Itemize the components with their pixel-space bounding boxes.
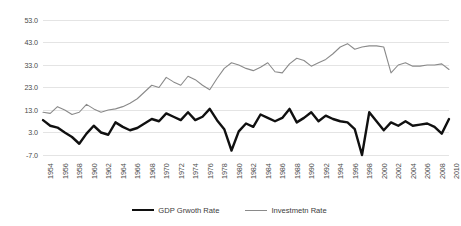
chart-legend: GDP Grwoth Rate Investmetn Rate [0, 202, 459, 218]
y-axis-tick-label: 3.0 [28, 128, 38, 137]
x-axis-tick-label: 1974 [191, 163, 200, 179]
x-axis-tick-label: 1964 [119, 163, 128, 179]
x-axis-tick-label: 1980 [235, 163, 244, 179]
legend-label-investment-rate: Investmetn Rate [271, 206, 326, 215]
x-axis-tick-label: 2002 [394, 163, 403, 179]
y-axis-tick-label: -7.0 [26, 151, 38, 160]
x-axis-tick-label: 1966 [133, 163, 142, 179]
x-axis-tick-label: 1986 [278, 163, 287, 179]
x-axis-tick-label: 1972 [177, 163, 186, 179]
x-axis-tick-label: 2000 [380, 163, 389, 179]
x-axis-tick-label: 1960 [90, 163, 99, 179]
x-axis-tick-label: 1994 [336, 163, 345, 179]
x-axis-tick-label: 2008 [438, 163, 447, 179]
x-axis-tick-label: 1976 [206, 163, 215, 179]
x-axis-tick-label: 1978 [220, 163, 229, 179]
x-axis-tick-label: 1990 [307, 163, 316, 179]
x-axis-tick-label: 1998 [365, 163, 374, 179]
x-axis-tick-label: 1954 [46, 163, 55, 179]
x-axis-tick-label: 2006 [423, 163, 432, 179]
y-axis-tick-label: 43.0 [24, 38, 38, 47]
legend-label-gdp-growth-rate: GDP Grwoth Rate [158, 206, 219, 215]
x-axis-tick-label: 1982 [249, 163, 258, 179]
x-axis-tick-label: 1968 [148, 163, 157, 179]
gridlines-group [43, 20, 449, 155]
series-group [43, 44, 449, 155]
x-axis-tick-label: 1988 [293, 163, 302, 179]
x-axis-tick-label: 2004 [409, 163, 418, 179]
x-axis-tick-label: 1970 [162, 163, 171, 179]
y-axis-tick-label: 33.0 [24, 61, 38, 70]
series-line-gdp-growth-rate [43, 109, 449, 155]
legend-swatch-gdp-growth-rate [132, 209, 154, 211]
y-axis-tick-label: 13.0 [24, 106, 38, 115]
x-axis-tick-label: 1956 [61, 163, 70, 179]
x-axis-tick-label: 2010 [452, 163, 461, 179]
x-axis-tick-label: 1992 [322, 163, 331, 179]
legend-item-investment-rate: Investmetn Rate [245, 206, 326, 215]
x-axis-tick-label: 1996 [351, 163, 360, 179]
legend-item-gdp-growth-rate: GDP Grwoth Rate [132, 206, 219, 215]
y-axis-tick-label: 53.0 [24, 16, 38, 25]
x-axis-tick-label: 1984 [264, 163, 273, 179]
x-axis-tick-label: 1962 [104, 163, 113, 179]
y-axis-tick-label: 23.0 [24, 83, 38, 92]
x-axis-tick-label: 1958 [75, 163, 84, 179]
legend-swatch-investment-rate [245, 210, 267, 211]
series-line-investment-rate [43, 44, 449, 115]
